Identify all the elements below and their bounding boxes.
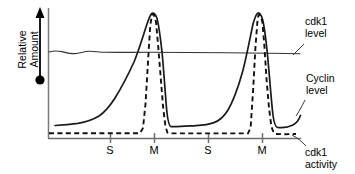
callout-cdk1-activity-line1: cdk1	[305, 147, 337, 159]
callout-cdk1-level-line1: cdk1	[305, 16, 327, 28]
leader-cyclin-level	[296, 100, 305, 116]
callout-cdk1-level: cdk1 level	[305, 16, 327, 39]
chart-canvas	[0, 0, 355, 174]
tick-label-m-1: M	[144, 144, 164, 156]
series-cdk1-level	[49, 51, 300, 54]
callout-cyclin-level: Cyclin level	[306, 73, 335, 96]
callout-cyclin-level-line1: Cyclin	[306, 73, 335, 85]
callout-cyclin-level-line2: level	[306, 85, 335, 97]
series-cdk1-activity	[49, 14, 296, 134]
y-axis-label: Relative Amount	[17, 10, 40, 90]
callout-cdk1-activity: cdk1 activity	[305, 147, 337, 170]
tick-label-m-2: M	[252, 144, 272, 156]
callout-cdk1-activity-line2: activity	[305, 159, 337, 171]
callout-cdk1-level-line2: level	[305, 28, 327, 40]
leader-cdk1-activity	[292, 135, 306, 146]
y-axis-label-line1: Relative	[17, 10, 29, 90]
cell-cycle-chart: Relative Amount S M S M cdk1 level Cycli…	[0, 0, 355, 174]
tick-label-s-2: S	[198, 144, 218, 156]
y-axis-label-line2: Amount	[28, 10, 40, 90]
tick-label-s-1: S	[100, 144, 120, 156]
